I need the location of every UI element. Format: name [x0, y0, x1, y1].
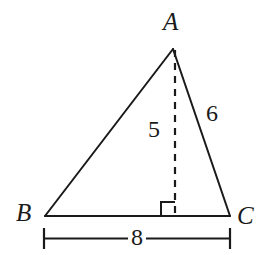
vertex-label-a: A: [163, 9, 178, 34]
base-length-label: 8: [128, 225, 146, 249]
altitude-length-label: 5: [148, 117, 160, 141]
right-angle-marker-icon: [161, 202, 175, 215]
vertex-label-c: C: [237, 203, 254, 228]
side-ac-length-label: 6: [206, 101, 218, 125]
geometry-diagram: A B C 5 6 8: [0, 0, 269, 263]
triangle-side-ac: [173, 49, 230, 216]
vertex-label-b: B: [16, 200, 31, 225]
